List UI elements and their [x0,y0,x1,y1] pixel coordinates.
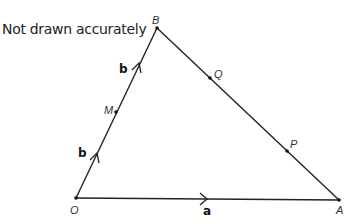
side-BA [157,28,339,200]
point-M [114,110,118,114]
triangle-diagram: O A B M Q P a b b [0,0,356,224]
vector-label-b-upper: b [119,62,128,76]
label-P: P [290,138,298,150]
label-Q: Q [214,68,223,80]
point-P [285,149,289,153]
label-A: A [335,204,343,216]
point-O [74,196,78,200]
label-B: B [152,14,159,26]
label-M: M [104,104,114,116]
vector-label-b-lower: b [78,146,87,160]
label-O: O [70,204,79,216]
vector-label-a: a [203,204,211,218]
point-A [337,198,341,202]
point-Q [208,76,212,80]
point-B [155,26,159,30]
